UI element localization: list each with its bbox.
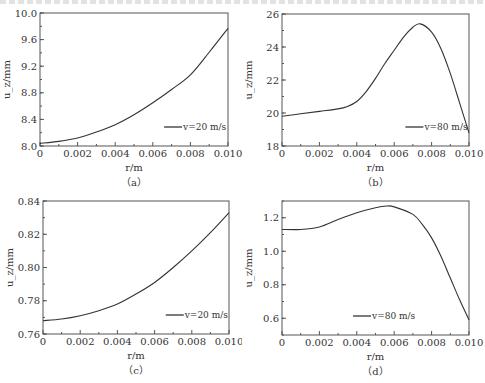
x-tick-label: 0 (279, 337, 285, 348)
x-tick-label: 0.008 (417, 337, 446, 348)
y-tick-label: 0.8 (263, 279, 279, 290)
panel-caption: （d） (362, 366, 388, 377)
x-tick-label: 0.010 (455, 337, 484, 348)
x-tick-label: 0.006 (380, 337, 409, 348)
x-axis-label: r/m (367, 351, 385, 362)
chart-panel-d: 00.0020.0040.0060.0080.0100.60.81.01.2v=… (0, 0, 485, 383)
y-tick-label: 1.0 (263, 246, 279, 257)
data-curve (282, 206, 469, 320)
x-tick-label: 0.002 (305, 337, 334, 348)
legend-label: v=80 m/s (371, 311, 416, 321)
x-tick-label: 0.004 (342, 337, 371, 348)
y-tick-label: 0.6 (263, 313, 279, 324)
y-tick-label: 1.2 (263, 212, 279, 223)
y-axis-label: u_z/mm (243, 248, 255, 288)
